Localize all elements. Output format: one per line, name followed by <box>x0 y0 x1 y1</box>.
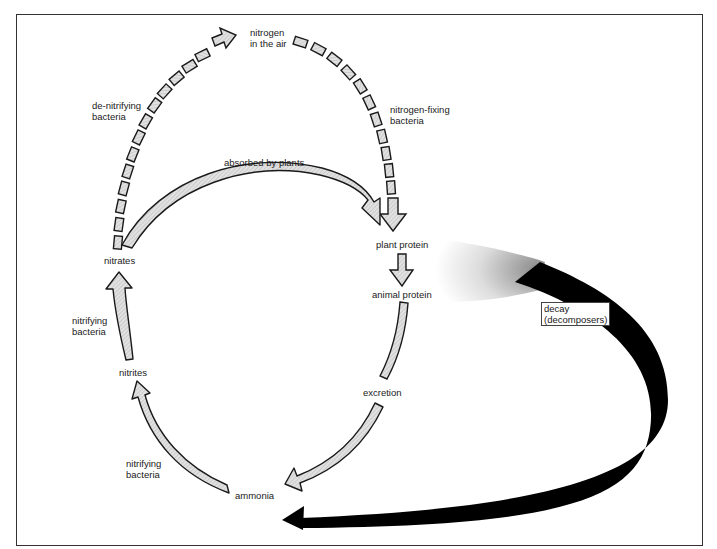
denitrifying-dashed-arrow <box>113 28 236 249</box>
label-line: bacteria <box>92 111 141 122</box>
label-plant-protein: plant protein <box>376 239 428 250</box>
label-line: nitrites <box>119 367 147 378</box>
label-line: decay <box>544 303 607 314</box>
label-nitrogen-fixing-bacteria: nitrogen-fixing bacteria <box>390 104 450 126</box>
nitrites-to-nitrates-arrow <box>106 272 133 360</box>
label-nitrifying-bacteria-upper: nitrifying bacteria <box>72 315 107 337</box>
label-nitrates: nitrates <box>104 255 135 266</box>
label-line: ammonia <box>235 490 274 501</box>
decay-arrow <box>282 238 668 530</box>
nitrogen-fixing-dashed-arrow <box>293 36 406 231</box>
excretion-to-ammonia-arrow <box>285 403 383 491</box>
label-line: nitrates <box>104 255 135 266</box>
label-nitrites: nitrites <box>119 367 147 378</box>
label-line: bacteria <box>390 115 450 126</box>
label-ammonia: ammonia <box>235 490 274 501</box>
label-line: nitrifying <box>72 315 107 326</box>
label-line: nitrifying <box>126 458 161 469</box>
label-line: bacteria <box>126 469 161 480</box>
nitrogen-cycle-diagram <box>0 0 717 549</box>
label-excretion: excretion <box>363 387 402 398</box>
plant-to-animal-arrow <box>390 254 413 286</box>
label-denitrifying-bacteria: de-nitrifying bacteria <box>92 100 141 122</box>
label-line: animal protein <box>372 289 432 300</box>
label-line: bacteria <box>72 326 107 337</box>
label-decay-decomposers: decay (decomposers) <box>541 302 610 326</box>
label-animal-protein: animal protein <box>372 289 432 300</box>
label-nitrogen-in-air: nitrogen in the air <box>250 27 286 49</box>
animal-protein-bar <box>380 302 408 379</box>
label-line: nitrogen-fixing <box>390 104 450 115</box>
label-absorbed-by-plants: absorbed by plants <box>224 157 304 168</box>
label-line: de-nitrifying <box>92 100 141 111</box>
label-line: excretion <box>363 387 402 398</box>
label-line: in the air <box>250 38 286 49</box>
label-line: plant protein <box>376 239 428 250</box>
label-line: (decomposers) <box>544 314 607 325</box>
label-line: nitrogen <box>250 27 286 38</box>
absorbed-by-plants-arrow <box>122 162 380 248</box>
label-line: absorbed by plants <box>224 157 304 168</box>
label-nitrifying-bacteria-lower: nitrifying bacteria <box>126 458 161 480</box>
